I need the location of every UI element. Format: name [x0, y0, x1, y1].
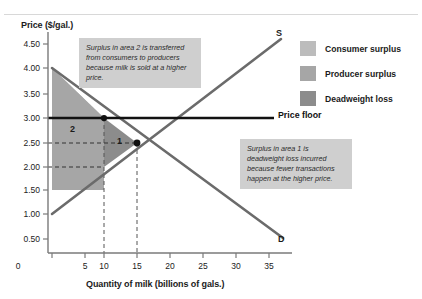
x-tick-label-15: 15	[127, 261, 147, 271]
supply-curve-label: S	[276, 28, 282, 38]
economics-chart-figure: Price ($/gal.) Quantity of milk (billion…	[0, 0, 422, 299]
y-tick-label-200: 2.00	[14, 162, 40, 172]
y-tick-label-350: 3.50	[14, 89, 40, 99]
legend-item-consumer-surplus: Consumer surplus	[300, 41, 401, 56]
x-tick-label-35: 35	[259, 261, 279, 271]
y-tick-label-450: 4.50	[14, 39, 40, 49]
x-tick-label-10: 10	[94, 261, 114, 271]
price-floor-label: Price floor	[278, 110, 322, 120]
legend-swatch-deadweight-loss	[300, 91, 316, 106]
y-axis-ticks	[43, 44, 48, 239]
legend-label-producer-surplus: Producer surplus	[325, 69, 396, 79]
x-tick-label-5: 5	[75, 261, 95, 271]
x-axis-ticks	[52, 253, 269, 258]
legend-label-deadweight-loss: Deadweight loss	[325, 94, 393, 104]
y-tick-label-250: 2.50	[14, 138, 40, 148]
y-tick-label-400: 4.00	[14, 63, 40, 73]
x-tick-label-0: 0	[8, 261, 28, 271]
y-tick-label-300: 3.00	[14, 113, 40, 123]
x-tick-label-25: 25	[193, 261, 213, 271]
legend-swatch-producer-surplus	[300, 66, 316, 81]
y-tick-label-150: 1.50	[14, 185, 40, 195]
x-axis-title: Quantity of milk (billions of gals.)	[86, 279, 224, 289]
legend-item-producer-surplus: Producer surplus	[300, 66, 396, 81]
x-tick-label-30: 30	[226, 261, 246, 271]
legend-swatch-consumer-surplus	[300, 41, 316, 56]
area-1-callout: Surplus in area 1 is deadweight loss inc…	[240, 139, 352, 189]
x-tick-label-20: 20	[160, 261, 180, 271]
legend-item-deadweight-loss: Deadweight loss	[300, 91, 393, 106]
area-2-number-label: 2	[70, 124, 75, 134]
area-2-callout: Surplus in area 2 is transferred from co…	[79, 38, 201, 88]
y-axis-title: Price ($/gal.)	[21, 20, 73, 30]
legend-label-consumer-surplus: Consumer surplus	[325, 44, 401, 54]
demand-curve-label: D	[278, 234, 285, 244]
price-floor-quantity-point	[101, 115, 107, 121]
area-1-number-label: 1	[117, 136, 122, 146]
y-tick-label-050: 0.50	[14, 234, 40, 244]
equilibrium-point	[134, 140, 141, 147]
y-tick-label-100: 1.00	[14, 209, 40, 219]
